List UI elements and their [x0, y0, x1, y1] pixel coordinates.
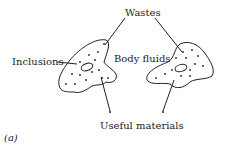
diagram-canvas: Wastes Inclusions Body fluids Useful mat… [0, 0, 230, 145]
body-fluids-label: Body fluids [114, 54, 170, 64]
panel-label: (a) [4, 133, 18, 143]
right-inclusion [174, 63, 187, 73]
left-cell-outline [59, 40, 117, 93]
wastes-label: Wastes [125, 8, 161, 18]
wastes-leader-right [155, 18, 182, 52]
inclusions-label: Inclusions [12, 57, 64, 67]
left-inclusion [80, 62, 94, 73]
useful-leader-right [163, 80, 174, 111]
wastes-leader-left [105, 18, 125, 45]
useful-materials-label: Useful materials [100, 121, 184, 131]
